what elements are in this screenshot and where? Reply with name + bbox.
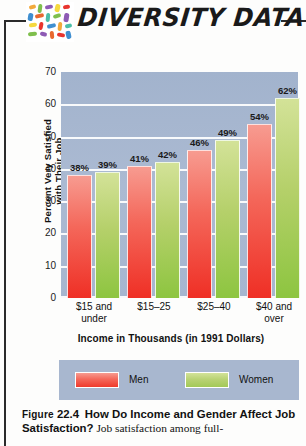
caption-number: 22.4	[54, 408, 79, 420]
bar-group-3: 46% 49%	[186, 72, 241, 298]
legend-label-men: Men	[129, 374, 148, 385]
bar-value-women-4: 62%	[278, 85, 297, 96]
y-tick-60: 60	[16, 99, 56, 109]
y-axis-ticks: 70 60 50 40 30 20 10 0	[0, 72, 61, 298]
bar-value-women-2: 42%	[158, 149, 177, 160]
bar-value-women-1: 39%	[98, 159, 117, 170]
figure-page: DIVERSITY DATA Percent Very Satisfied wi…	[0, 0, 306, 446]
x-category-4-line1: $40 and	[256, 301, 292, 312]
y-tick-50: 50	[16, 132, 56, 142]
y-tick-20: 20	[16, 228, 56, 238]
figure-caption: Figure 22.4 How Do Income and Gender Aff…	[22, 408, 300, 435]
x-category-1-line1: $15 and	[76, 301, 112, 312]
x-category-2-line1: $15–25	[137, 301, 170, 312]
bar-men-1[interactable]: 38%	[67, 175, 92, 298]
bar-value-men-2: 41%	[130, 153, 149, 164]
y-tick-40: 40	[16, 164, 56, 174]
x-category-1-line2: under	[81, 313, 107, 324]
bar-women-1[interactable]: 39%	[95, 172, 120, 298]
y-tick-70: 70	[16, 67, 56, 77]
y-tick-10: 10	[16, 261, 56, 271]
bar-value-men-4: 54%	[250, 111, 269, 122]
x-axis-title: Income in Thousands (in 1991 Dollars)	[40, 333, 302, 344]
bar-value-women-3: 49%	[218, 127, 237, 138]
legend-swatch-women	[185, 372, 229, 388]
legend-swatch-men	[75, 372, 119, 388]
caption-figure-word: Figure	[22, 409, 54, 420]
diversity-data-header: DIVERSITY DATA	[0, 0, 306, 46]
bar-men-3[interactable]: 46%	[187, 150, 212, 299]
bar-women-2[interactable]: 42%	[155, 162, 180, 298]
caption-body: Job satisfaction among full-	[96, 422, 223, 434]
bar-men-2[interactable]: 41%	[127, 166, 152, 298]
x-category-4: $40 and over	[239, 301, 306, 325]
x-category-4-line2: over	[264, 313, 283, 324]
bar-value-men-1: 38%	[70, 162, 89, 173]
y-tick-30: 30	[16, 196, 56, 206]
x-axis-categories: $15 and under $15–25 $25–40 $40 and over	[61, 301, 298, 331]
bar-women-4[interactable]: 62%	[275, 98, 300, 298]
legend-label-women: Women	[239, 374, 273, 385]
diversity-mosaic-logo-icon	[26, 2, 74, 42]
x-category-3-line1: $25–40	[197, 301, 230, 312]
bar-series-group: 38% 39% 41% 42% 46%	[61, 72, 298, 298]
bar-men-4[interactable]: 54%	[247, 124, 272, 298]
bar-value-men-3: 46%	[190, 137, 209, 148]
bar-group-4: 54% 62%	[246, 72, 301, 298]
header-title: DIVERSITY DATA	[76, 3, 277, 32]
bar-group-2: 41% 42%	[126, 72, 181, 298]
y-tick-0: 0	[16, 293, 56, 303]
chart-container: Percent Very Satisfied with Their Job 70…	[0, 52, 306, 352]
bar-women-3[interactable]: 49%	[215, 140, 240, 298]
chart-legend: Men Women	[59, 360, 299, 400]
bar-group-1: 38% 39%	[66, 72, 121, 298]
